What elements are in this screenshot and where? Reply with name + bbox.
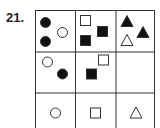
black-square-icon [81,36,91,46]
black-circle-icon [41,18,51,28]
white-square-icon [81,16,91,26]
shape-matrix [35,10,157,128]
black-triangle-icon [137,27,149,38]
white-triangle-icon [121,35,133,46]
cell-r1-c1 [41,18,68,47]
black-square-icon [98,27,108,37]
cell-r3-c1 [51,108,61,118]
black-circle-icon [41,37,51,47]
white-circle-icon [43,57,53,67]
matrix-grid [35,10,157,128]
cell-r2-c1 [43,57,68,79]
cell-r1-c3 [121,16,149,46]
cell-r3-c2 [91,108,101,118]
cell-r2-c2 [87,55,109,79]
cell-r1-c2 [81,16,108,46]
white-circle-icon [58,28,68,38]
black-square-icon [87,69,97,79]
white-circle-icon [51,108,61,118]
black-circle-icon [58,69,68,79]
white-square-icon [91,108,101,118]
white-triangle-icon [130,107,142,118]
white-square-icon [99,55,109,65]
question-number: 21. [6,10,24,25]
cell-r3-c3 [130,107,142,118]
black-triangle-icon [121,16,133,27]
